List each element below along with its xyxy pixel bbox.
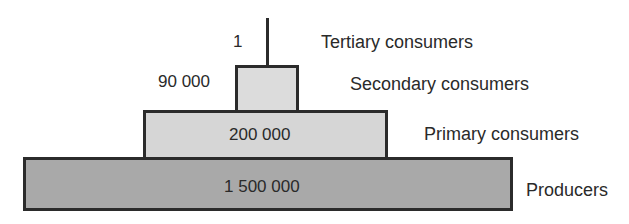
secondary-consumers-label: Secondary consumers (350, 74, 529, 95)
producers-label: Producers (526, 180, 608, 201)
primary-consumers-label: Primary consumers (424, 124, 579, 145)
tertiary-consumers-label: Tertiary consumers (321, 32, 473, 53)
producers-value: 1 500 000 (224, 177, 300, 197)
secondary-consumers-value: 90 000 (158, 72, 210, 92)
secondary-consumers-bar (235, 65, 299, 115)
pyramid-of-numbers-diagram: 1 Tertiary consumers 90 000 Secondary co… (0, 0, 629, 224)
primary-consumers-value: 200 000 (229, 125, 290, 145)
tertiary-consumers-value: 1 (233, 32, 242, 52)
tertiary-consumers-bar (266, 18, 269, 68)
